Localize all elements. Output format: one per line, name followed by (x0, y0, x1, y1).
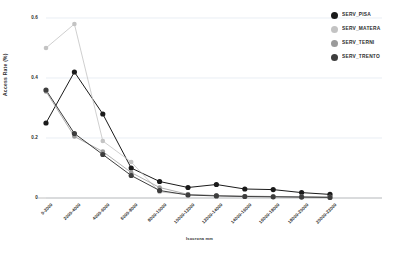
data-point (185, 185, 190, 190)
series-points (43, 22, 332, 200)
series-line-serv_matera (46, 24, 330, 197)
y-tick-label: 0.6 (20, 15, 38, 20)
data-point (157, 188, 162, 193)
y-tick-label: 0 (20, 195, 38, 200)
y-tick-label: 0.4 (20, 75, 38, 80)
data-point (100, 111, 105, 116)
legend-item-serv-terni[interactable]: SERV_TERNI (329, 36, 395, 50)
data-point (299, 190, 304, 195)
chart-container: 00.20.40.6 0-20002000-40004000-60006000-… (0, 0, 399, 254)
legend-marker-icon (331, 40, 338, 47)
legend-marker-icon (331, 54, 338, 61)
legend-item-label: SERV_TERNI (342, 40, 374, 45)
legend-item-serv-matera[interactable]: SERV_MATERA (329, 22, 395, 36)
series-line-serv_trento (46, 90, 330, 197)
chart-legend: SERV_PISASERV_MATERASERV_TERNISERV_TRENT… (329, 8, 395, 64)
data-point (129, 173, 134, 178)
series-line-serv_pisa (46, 72, 330, 194)
data-point (327, 195, 332, 200)
series-lines (46, 24, 330, 197)
data-point (242, 194, 247, 199)
y-tick-label: 0.2 (20, 135, 38, 140)
data-point (72, 131, 77, 136)
data-point (129, 165, 134, 170)
data-point (242, 186, 247, 191)
data-point (157, 179, 162, 184)
legend-item-serv-trento[interactable]: SERV_TRENTO (329, 50, 395, 64)
legend-item-serv-pisa[interactable]: SERV_PISA (329, 8, 395, 22)
data-point (43, 120, 48, 125)
legend-marker-icon (331, 26, 338, 33)
data-point (129, 160, 134, 165)
y-axis-title: Access Rate (%) (2, 53, 8, 96)
data-point (72, 69, 77, 74)
data-point (299, 195, 304, 200)
data-point (101, 139, 106, 144)
legend-item-label: SERV_PISA (342, 12, 371, 17)
legend-marker-icon (331, 12, 338, 19)
data-point (185, 192, 190, 197)
data-point (72, 22, 77, 27)
legend-item-label: SERV_TRENTO (342, 54, 380, 59)
data-point (214, 193, 219, 198)
data-point (43, 87, 48, 92)
data-point (271, 194, 276, 199)
x-axis-title: Isocrona mm (0, 236, 399, 241)
data-point (271, 187, 276, 192)
legend-item-label: SERV_MATERA (342, 26, 380, 31)
data-point (214, 182, 219, 187)
data-point (100, 152, 105, 157)
data-point (44, 46, 49, 51)
